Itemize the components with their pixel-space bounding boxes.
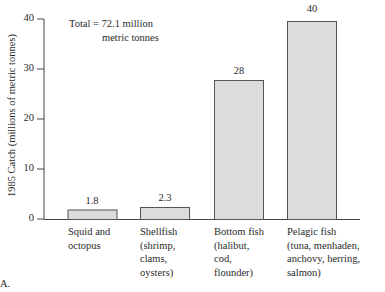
- y-tick-label-0: 0: [14, 212, 34, 223]
- bar-bottom-fish: [215, 81, 264, 220]
- category-label-shellfish: Shellfish (shrimp, clams, oysters): [140, 225, 177, 279]
- y-axis-label: 1985 Catch (millions of metric tonnes): [6, 16, 17, 216]
- category-label-squid: Squid and octopus: [68, 225, 110, 252]
- value-label-bottom-fish: 28: [214, 65, 264, 76]
- total-annotation-line1: Total = 72.1 million: [69, 17, 153, 30]
- total-annotation-line2: metric tonnes: [102, 31, 159, 44]
- bar-squid-octopus: [68, 210, 117, 220]
- bar-pelagic-fish: [288, 22, 337, 220]
- y-tick-label-40: 40: [14, 12, 34, 23]
- y-tick-label-20: 20: [14, 112, 34, 123]
- value-label-shellfish: 2.3: [140, 192, 190, 203]
- category-label-pelagic-fish: Pelagic fish (tuna, menhaden, anchovy, h…: [287, 225, 360, 279]
- bar-shellfish: [141, 208, 190, 220]
- value-label-pelagic-fish: 40: [287, 3, 337, 14]
- y-tick-label-30: 30: [14, 62, 34, 73]
- value-label-squid: 1.8: [67, 195, 117, 206]
- panel-label: A.: [0, 277, 10, 291]
- y-tick-label-10: 10: [14, 162, 34, 173]
- category-label-bottom-fish: Bottom fish (halibut, cod, flounder): [214, 225, 264, 279]
